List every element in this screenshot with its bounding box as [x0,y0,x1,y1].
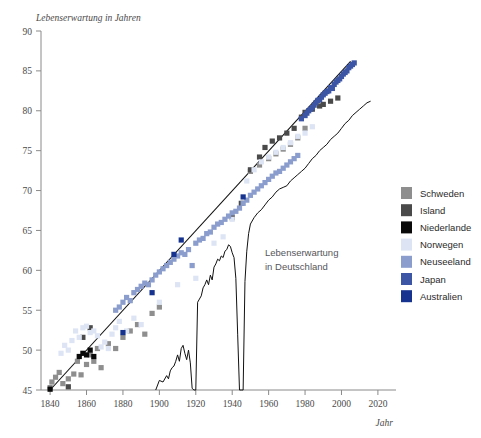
data-point [66,376,71,381]
data-point [139,322,144,327]
data-point [88,348,93,353]
data-point [106,346,111,351]
x-tick-label: 1920 [186,399,205,409]
y-tick-label: 85 [23,66,33,76]
legend-item-australien[interactable]: Australien [401,290,462,302]
data-point [142,332,147,337]
legend-item-japan[interactable]: Japan [401,273,446,285]
data-point [78,372,83,377]
data-point [95,333,100,338]
data-point [98,365,103,370]
data-point [66,348,71,353]
y-tick-label: 60 [23,266,33,276]
data-point [117,304,122,309]
data-point [60,381,65,386]
chart-legend: SchwedenIslandNiederlandeNorwegenNeuseel… [401,187,471,302]
data-point [284,131,289,136]
data-point [295,134,300,139]
data-point [120,300,125,305]
legend-swatch [401,290,412,302]
data-point [48,387,53,392]
legend-label: Island [420,205,445,216]
x-tick-label: 1860 [77,399,96,409]
data-point [84,352,89,357]
data-point [84,324,89,329]
x-tick-label: 2020 [368,399,387,409]
data-point [157,300,162,305]
data-point [157,304,162,309]
data-point [66,384,71,389]
y-tick-label: 75 [23,146,33,156]
data-point [273,150,278,155]
series-japan [299,60,357,121]
legend-label: Neuseeland [420,256,471,267]
data-point [175,282,180,287]
data-point [281,145,286,150]
x-tick-label: 1980 [296,399,315,409]
x-tick-label: 1880 [113,399,132,409]
data-point [149,290,154,295]
data-point [310,124,315,129]
data-point [73,328,78,333]
legend-item-schweden[interactable]: Schweden [401,187,464,199]
data-point [91,354,96,359]
germany-path [156,101,371,390]
life-expectancy-chart: 9085807570656055504518401860188019001920… [0,0,481,438]
data-point [237,206,242,211]
data-point [117,319,122,324]
data-point [277,135,282,140]
data-point [200,236,205,241]
legend-swatch [401,221,412,233]
legend-swatch [401,256,412,268]
data-point [113,325,118,330]
data-point [49,379,54,384]
data-point [295,153,300,158]
data-point [131,316,136,321]
data-point [251,167,256,172]
x-tick-label: 1960 [259,399,278,409]
data-point [58,351,63,356]
data-point [171,252,176,257]
data-point [208,229,213,234]
y-tick-label: 80 [23,106,33,116]
data-point [84,362,89,367]
data-point [77,335,82,340]
y-axis-title: Lebenserwartung in Jahren [35,13,141,23]
data-point [257,154,262,159]
data-point [113,346,118,351]
data-point [75,359,80,364]
legend-swatch [401,187,412,199]
data-point [186,247,191,252]
legend-item-island[interactable]: Island [401,204,445,216]
legend-label: Australien [420,291,462,302]
y-tick-label: 65 [23,226,33,236]
legend-item-norwegen[interactable]: Norwegen [401,239,463,251]
y-tick-label: 45 [23,386,33,396]
x-tick-label: 2000 [332,399,351,409]
data-point [259,159,264,164]
data-point [221,234,226,239]
data-point [302,126,307,131]
annotation-line-1: Lebenserwartung [265,247,338,258]
legend-item-neuseeland[interactable]: Neuseeland [401,256,471,268]
data-point [91,328,96,333]
y-tick-label: 90 [23,27,33,37]
data-point [102,340,107,345]
data-point [149,311,154,316]
data-point [262,145,267,150]
data-point [91,359,96,364]
data-point [302,131,307,136]
legend-label: Japan [420,274,446,285]
y-tick-label: 50 [23,346,33,356]
data-point [182,252,187,257]
legend-swatch [401,239,412,251]
data-point [57,370,62,375]
legend-item-niederlande[interactable]: Niederlande [401,221,471,233]
data-point [98,344,103,349]
germany-line [156,101,371,390]
data-point [266,154,271,159]
data-point [270,138,275,143]
data-point [328,99,333,104]
data-point [120,330,125,335]
legend-swatch [401,204,412,216]
